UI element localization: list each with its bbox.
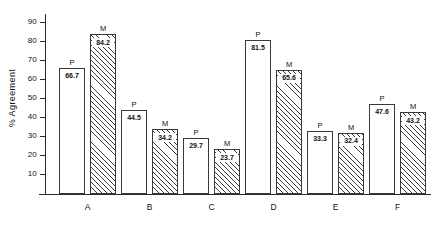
y-axis-tick: 60 bbox=[40, 79, 46, 80]
y-axis-tick-label: 60 bbox=[28, 73, 37, 84]
x-axis-category-label: F bbox=[368, 202, 428, 213]
bar-d-p: P81.5 bbox=[245, 40, 271, 194]
x-axis-category-label: C bbox=[182, 202, 242, 213]
bar-a-m: M84.2 bbox=[90, 34, 116, 194]
bar-series-tag: P bbox=[370, 94, 394, 103]
y-axis-tick-label: 20 bbox=[28, 149, 37, 160]
bar-group: P47.6M43.2 bbox=[369, 14, 426, 194]
bar-value-label: 84.2 bbox=[92, 38, 114, 47]
y-axis-title-text: % Agreement bbox=[7, 69, 17, 127]
bar-value-label: 32.4 bbox=[340, 137, 362, 146]
y-axis-tick: 30 bbox=[40, 136, 46, 137]
x-axis-category-label: B bbox=[120, 202, 180, 213]
y-axis-tick: 80 bbox=[40, 41, 46, 42]
y-axis-tick-label: 80 bbox=[28, 35, 37, 46]
bar-group: P33.3M32.4 bbox=[307, 14, 364, 194]
bar-a-p: P66.7 bbox=[59, 68, 85, 194]
y-axis-tick-label: 70 bbox=[28, 54, 37, 65]
bar-series-tag: M bbox=[153, 119, 177, 128]
y-axis-title: % Agreement bbox=[4, 0, 20, 196]
x-axis-category-label: D bbox=[244, 202, 304, 213]
y-axis-tick: 10 bbox=[40, 174, 46, 175]
bar-group: P44.5M34.2 bbox=[121, 14, 178, 194]
bar-c-p: P29.7 bbox=[183, 138, 209, 194]
y-axis-tick-label: 10 bbox=[28, 168, 37, 179]
y-axis-tick: 90 bbox=[40, 22, 46, 23]
bar-d-m: M65.6 bbox=[276, 70, 302, 194]
bar-value-label: 29.7 bbox=[185, 142, 207, 151]
bar-value-label: 23.7 bbox=[216, 153, 238, 162]
bar-e-m: M32.4 bbox=[338, 133, 364, 194]
x-axis-category-label: E bbox=[306, 202, 366, 213]
bar-series-tag: P bbox=[246, 30, 270, 39]
bar-value-label: 66.7 bbox=[61, 72, 83, 81]
y-axis-tick-label: 30 bbox=[28, 130, 37, 141]
bar-series-tag: P bbox=[308, 121, 332, 130]
bar-chart-figure: % Agreement 102030405060708090 P66.7M84.… bbox=[0, 0, 443, 234]
bar-b-m: M34.2 bbox=[152, 129, 178, 194]
bar-series-tag: P bbox=[122, 100, 146, 109]
bar-value-label: 33.3 bbox=[309, 135, 331, 144]
bar-series-tag: P bbox=[184, 128, 208, 137]
bar-value-label: 47.6 bbox=[371, 108, 393, 117]
bar-series-tag: M bbox=[91, 24, 115, 33]
bar-e-p: P33.3 bbox=[307, 131, 333, 194]
bar-value-label: 44.5 bbox=[123, 114, 145, 123]
bar-series-tag: M bbox=[339, 123, 363, 132]
y-axis-tick-label: 90 bbox=[28, 16, 37, 27]
y-axis-tick: 20 bbox=[40, 155, 46, 156]
y-axis-tick: 70 bbox=[40, 60, 46, 61]
bar-value-label: 34.2 bbox=[154, 133, 176, 142]
y-axis-tick: 40 bbox=[40, 117, 46, 118]
bar-value-label: 43.2 bbox=[402, 116, 424, 125]
y-axis-tick-label: 50 bbox=[28, 92, 37, 103]
bar-f-m: M43.2 bbox=[400, 112, 426, 194]
bar-series-tag: M bbox=[215, 139, 239, 148]
bar-value-label: 65.6 bbox=[278, 74, 300, 83]
bar-b-p: P44.5 bbox=[121, 110, 147, 194]
y-axis-tick-label: 40 bbox=[28, 111, 37, 122]
bar-series-tag: M bbox=[401, 102, 425, 111]
bar-value-label: 81.5 bbox=[247, 44, 269, 53]
x-axis-line bbox=[39, 194, 431, 195]
y-axis-tick: 50 bbox=[40, 98, 46, 99]
bar-c-m: M23.7 bbox=[214, 149, 240, 194]
bar-group: P81.5M65.6 bbox=[245, 14, 302, 194]
plot-area: 102030405060708090 P66.7M84.2P44.5M34.2P… bbox=[45, 14, 431, 195]
bar-group: P66.7M84.2 bbox=[59, 14, 116, 194]
bar-series-tag: M bbox=[277, 60, 301, 69]
x-axis-category-label: A bbox=[58, 202, 118, 213]
bar-group: P29.7M23.7 bbox=[183, 14, 240, 194]
bar-f-p: P47.6 bbox=[369, 104, 395, 194]
bar-series-tag: P bbox=[60, 58, 84, 67]
